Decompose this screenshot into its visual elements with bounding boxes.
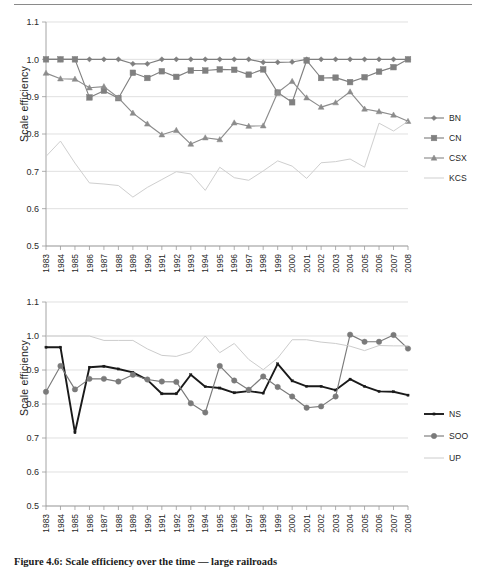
data-point-marker <box>431 115 436 120</box>
x-tick-label: 1988 <box>114 254 124 273</box>
chart-svg-top: 0.50.60.70.80.91.01.11983198419851986198… <box>0 10 485 292</box>
data-point-marker <box>347 89 353 94</box>
legend-label-kcs: KCS <box>449 173 467 183</box>
data-point-marker <box>43 57 49 63</box>
x-tick-label: 1995 <box>215 254 225 273</box>
data-point-marker <box>290 59 295 64</box>
series-bn <box>43 57 410 67</box>
y-tick-label: 0.8 <box>26 129 39 139</box>
series-polyline <box>46 347 408 432</box>
x-tick-label: 1986 <box>85 254 95 273</box>
data-point-marker <box>407 394 409 396</box>
data-point-marker <box>103 365 105 367</box>
data-point-marker <box>376 339 381 344</box>
data-point-marker <box>289 394 294 399</box>
data-point-marker <box>203 57 208 62</box>
legend-label-up: UP <box>449 453 461 463</box>
x-tick-label: 2005 <box>360 514 370 533</box>
y-tick-label: 0.8 <box>26 399 39 409</box>
data-point-marker <box>87 57 92 62</box>
data-point-marker <box>188 57 193 62</box>
data-point-marker <box>145 61 150 66</box>
data-point-marker <box>188 68 194 74</box>
data-point-marker <box>362 57 367 62</box>
x-tick-label: 2000 <box>287 514 297 533</box>
x-tick-label: 2004 <box>345 254 355 273</box>
x-tick-label: 1990 <box>143 254 153 273</box>
x-tick-label: 2006 <box>374 514 384 533</box>
data-point-marker <box>378 390 380 392</box>
data-point-marker <box>318 75 324 81</box>
data-point-marker <box>362 74 368 80</box>
data-point-marker <box>174 379 179 384</box>
x-tick-label: 1992 <box>172 514 182 533</box>
data-point-marker <box>217 57 222 62</box>
data-point-marker <box>232 57 237 62</box>
x-tick-label: 1999 <box>273 514 283 533</box>
data-point-marker <box>159 68 165 74</box>
x-tick-label: 2008 <box>403 254 413 273</box>
y-tick-label: 0.6 <box>26 467 39 477</box>
x-tick-label: 2007 <box>389 254 399 273</box>
series-up <box>46 336 408 370</box>
data-point-marker <box>391 64 397 70</box>
x-tick-label: 2002 <box>316 254 326 273</box>
x-tick-label: 2000 <box>287 254 297 273</box>
gridlines <box>46 22 408 246</box>
data-point-marker <box>392 391 394 393</box>
data-point-marker <box>190 374 192 376</box>
data-point-marker <box>145 75 151 81</box>
x-tick-label: 1993 <box>186 254 196 273</box>
chart-top-large-railroads: Scale efficiency 0.50.60.70.80.91.01.119… <box>0 10 485 292</box>
data-point-marker <box>246 57 251 62</box>
data-point-marker <box>188 401 193 406</box>
data-point-marker <box>219 387 221 389</box>
x-tick-label: 1989 <box>128 514 138 533</box>
series-kcs <box>46 121 408 197</box>
x-tick-label: 2002 <box>316 514 326 533</box>
data-point-marker <box>231 120 237 125</box>
x-tick-label: 1997 <box>244 514 254 533</box>
data-point-marker <box>318 404 323 409</box>
data-point-marker <box>159 57 164 62</box>
data-point-marker <box>202 135 208 140</box>
data-point-marker <box>262 392 264 394</box>
x-tick-label: 1998 <box>258 514 268 533</box>
x-tick-label: 1985 <box>70 514 80 533</box>
legend-label-ns: NS <box>449 409 461 419</box>
data-point-marker <box>74 431 76 433</box>
data-point-marker <box>204 386 206 388</box>
data-point-marker <box>130 61 135 66</box>
legend-label-bn: BN <box>449 113 461 123</box>
y-tick-label: 0.9 <box>26 365 39 375</box>
data-point-marker <box>347 57 352 62</box>
data-point-marker <box>291 380 293 382</box>
x-tick-label: 2006 <box>374 254 384 273</box>
series-ns <box>45 346 409 434</box>
series-polyline <box>46 336 408 370</box>
y-tick-labels: 0.50.60.70.80.91.01.1 <box>26 297 46 511</box>
x-tick-label: 1995 <box>215 514 225 533</box>
data-point-marker <box>333 57 338 62</box>
data-point-marker <box>260 67 266 73</box>
data-point-marker <box>43 389 48 394</box>
data-point-marker <box>202 68 208 74</box>
x-tick-label: 2004 <box>345 514 355 533</box>
x-tick-label: 1994 <box>200 514 210 533</box>
x-tick-label: 1987 <box>99 514 109 533</box>
data-point-marker <box>289 78 295 83</box>
data-point-marker <box>58 363 63 368</box>
y-tick-label: 0.7 <box>26 167 39 177</box>
x-tick-label: 1996 <box>229 514 239 533</box>
data-point-marker <box>217 67 223 73</box>
data-point-marker <box>174 57 179 62</box>
data-point-marker <box>174 74 180 80</box>
legend: NSSOOUP <box>424 409 468 463</box>
data-point-marker <box>58 57 64 63</box>
data-point-marker <box>405 346 410 351</box>
x-tick-label: 1997 <box>244 254 254 273</box>
x-tick-label: 1994 <box>200 254 210 273</box>
data-point-marker <box>320 385 322 387</box>
y-tick-label: 0.6 <box>26 204 39 214</box>
data-point-marker <box>87 95 93 101</box>
